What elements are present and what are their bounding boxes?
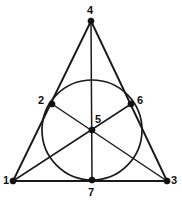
point-label-7: 7 [88,187,94,198]
point-label-1: 1 [3,175,9,186]
triangle-outline [13,21,167,181]
triangle-edge-4-3 [91,21,167,181]
geometry-figure: 1 2 3 4 5 6 7 [0,0,182,203]
node-dot-group [10,18,170,184]
point-label-4: 4 [87,5,93,16]
node-dot-1 [10,178,16,184]
node-dot-4 [88,18,94,24]
cevian-4-5-7 [91,21,92,180]
cevian-1-5-6 [13,104,131,181]
node-dot-2 [49,101,55,107]
cevian-group [13,21,167,181]
point-label-3: 3 [171,175,177,186]
geometry-canvas [0,0,182,203]
node-dot-6 [128,101,134,107]
node-dot-5 [89,127,95,133]
point-label-2: 2 [38,95,44,106]
node-dot-3 [164,178,170,184]
node-dot-7 [89,177,95,183]
point-label-6: 6 [137,95,143,106]
point-label-5: 5 [95,114,101,125]
